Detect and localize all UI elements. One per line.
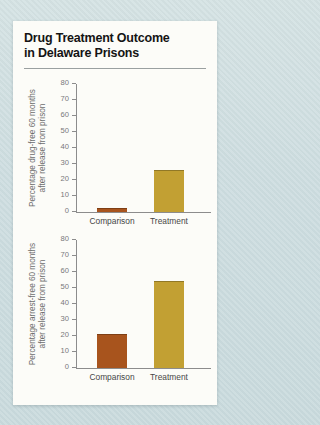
x-category-label: Treatment (150, 372, 188, 382)
y-tick-mark (72, 147, 76, 148)
title-divider (24, 68, 206, 69)
y-tick-label: 80 (51, 235, 69, 243)
y-tick-mark (72, 319, 76, 320)
chart-drug-free: Percentage drug-free 60 months after rel… (24, 84, 206, 213)
figure-card: Drug Treatment Outcome in Delaware Priso… (13, 21, 217, 405)
y-axis-title-text: Percentage arrest-free 60 months after r… (28, 231, 49, 377)
y-tick-mark (72, 255, 76, 256)
chart-arrest-free: Percentage arrest-free 60 months after r… (24, 240, 206, 369)
y-tick-mark (72, 195, 76, 196)
y-tick-mark (72, 179, 76, 180)
y-tick-label: 50 (51, 283, 69, 291)
y-tick-mark (72, 367, 76, 368)
y-tick-label: 30 (51, 315, 69, 323)
x-category-label: Treatment (150, 216, 188, 226)
y-tick-mark (72, 163, 76, 164)
y-tick-mark (72, 115, 76, 116)
y-axis-title-line1: Percentage drug-free 60 months (28, 89, 37, 207)
y-tick-label: 70 (51, 95, 69, 103)
y-tick-label: 20 (51, 331, 69, 339)
y-tick-mark (72, 211, 76, 212)
y-tick-label: 10 (51, 347, 69, 355)
y-axis-title: Percentage arrest-free 60 months after r… (24, 240, 52, 368)
y-tick-label: 80 (51, 79, 69, 87)
y-tick-mark (72, 83, 76, 84)
y-tick-label: 50 (51, 127, 69, 135)
x-category-label: Comparison (89, 216, 134, 226)
plot-area: 01020304050607080ComparisonTreatment (76, 240, 211, 369)
plot-area: 01020304050607080ComparisonTreatment (76, 84, 211, 213)
y-axis-title-text: Percentage drug-free 60 months after rel… (28, 75, 49, 221)
comparison-bar (97, 334, 127, 368)
y-tick-mark (72, 99, 76, 100)
y-tick-label: 40 (51, 299, 69, 307)
y-tick-label: 20 (51, 175, 69, 183)
y-tick-mark (72, 335, 76, 336)
figure-title-line1: Drug Treatment Outcome (24, 31, 170, 45)
y-tick-mark (72, 239, 76, 240)
y-tick-label: 10 (51, 191, 69, 199)
page-background: { "page": { "background_color": "#cfdee0… (0, 0, 230, 425)
y-tick-mark (72, 351, 76, 352)
y-axis-title: Percentage drug-free 60 months after rel… (24, 84, 52, 212)
y-axis-title-line2: after release from prison (38, 103, 47, 192)
y-tick-label: 60 (51, 267, 69, 275)
y-tick-mark (72, 287, 76, 288)
y-tick-label: 70 (51, 251, 69, 259)
x-category-label: Comparison (89, 372, 134, 382)
comparison-bar (97, 208, 127, 211)
y-tick-mark (72, 303, 76, 304)
figure-title-line2: in Delaware Prisons (24, 46, 139, 60)
y-tick-label: 0 (51, 207, 69, 215)
y-axis-title-line2: after release from prison (38, 259, 47, 348)
y-tick-mark (72, 131, 76, 132)
y-tick-label: 60 (51, 111, 69, 119)
y-tick-label: 0 (51, 363, 69, 371)
y-axis-title-line1: Percentage arrest-free 60 months (28, 242, 37, 364)
y-tick-label: 40 (51, 143, 69, 151)
y-tick-mark (72, 271, 76, 272)
y-tick-label: 30 (51, 159, 69, 167)
figure-title: Drug Treatment Outcome in Delaware Priso… (24, 31, 206, 61)
treatment-bar (154, 170, 184, 212)
treatment-bar (154, 281, 184, 367)
